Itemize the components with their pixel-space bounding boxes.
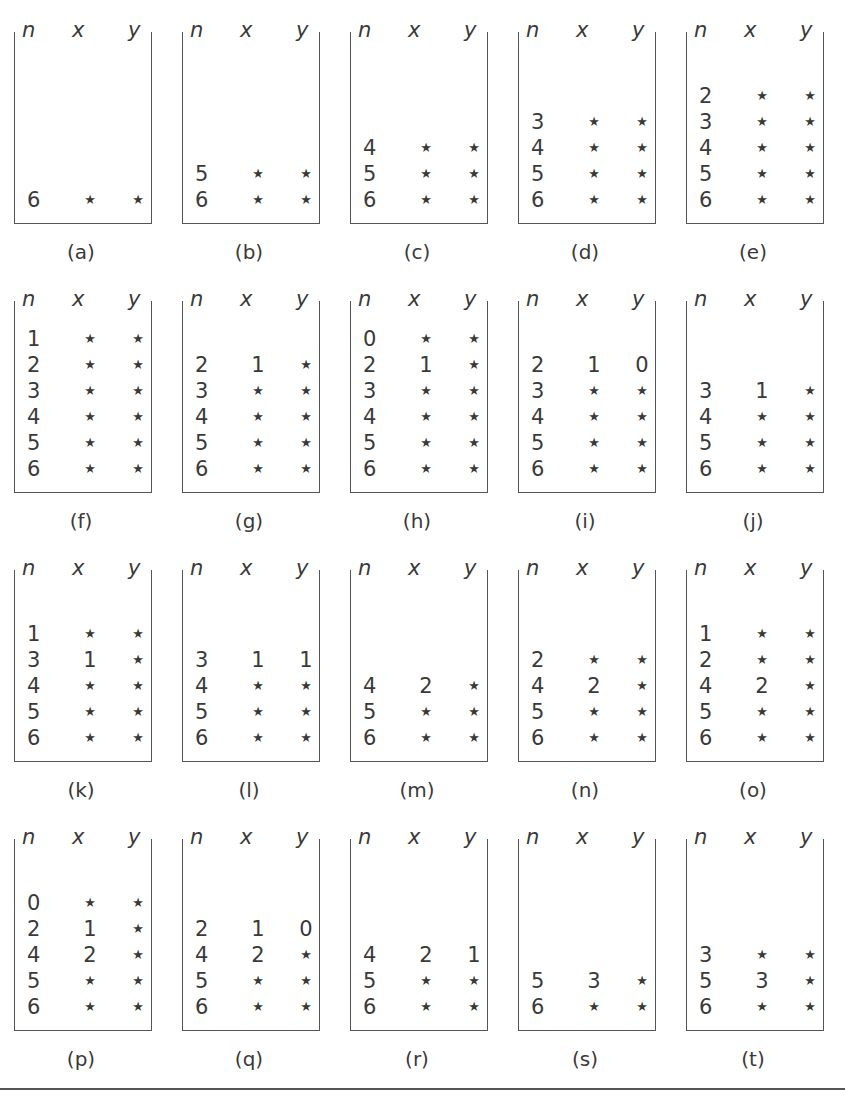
stack-row: 6 ★ ★ bbox=[351, 187, 487, 213]
cell-n: 6 bbox=[363, 187, 376, 213]
stack-panel-o: 1 ★ ★ 2 ★ ★ 4 2 ★ 5 ★ ★ 6 ★ ★ n x y (o) bbox=[682, 556, 824, 804]
cell-x-unset: ★ bbox=[411, 378, 441, 404]
column-headers: n x y bbox=[346, 556, 488, 584]
stack-row: 5 ★ ★ bbox=[183, 968, 319, 994]
stack-frame: 3 ★ ★ 4 ★ ★ 5 ★ ★ 6 ★ ★ bbox=[518, 32, 656, 224]
stack-panel-n: 2 ★ ★ 4 2 ★ 5 ★ ★ 6 ★ ★ n x y (n) bbox=[514, 556, 656, 804]
cell-y-unset: ★ bbox=[125, 968, 151, 994]
header-n: n bbox=[22, 18, 35, 42]
cell-y-unset: ★ bbox=[125, 673, 151, 699]
stack-frame: 1 ★ ★ 3 1 ★ 4 ★ ★ 5 ★ ★ 6 ★ ★ bbox=[14, 570, 152, 762]
cell-y-unset: ★ bbox=[125, 430, 151, 456]
cell-n: 6 bbox=[195, 994, 208, 1020]
cell-x: 2 bbox=[243, 942, 273, 968]
cell-y-unset: ★ bbox=[125, 326, 151, 352]
panel-caption: (o) bbox=[682, 778, 824, 802]
cell-y-unset: ★ bbox=[797, 83, 823, 109]
cell-x: 1 bbox=[243, 352, 273, 378]
stack-row: 6 ★ ★ bbox=[183, 725, 319, 751]
cell-x-unset: ★ bbox=[75, 378, 105, 404]
cell-x-unset: ★ bbox=[75, 994, 105, 1020]
stack-row: 3 1 ★ bbox=[15, 647, 151, 673]
stack-row: 3 ★ ★ bbox=[519, 378, 655, 404]
cell-y-unset: ★ bbox=[461, 404, 487, 430]
stack-frame: 1 ★ ★ 2 ★ ★ 4 2 ★ 5 ★ ★ 6 ★ ★ bbox=[686, 570, 824, 762]
stack-rows: 2 1 0 3 ★ ★ 4 ★ ★ 5 ★ ★ 6 ★ ★ bbox=[519, 352, 655, 482]
stack-row: 4 2 ★ bbox=[15, 942, 151, 968]
cell-y-unset: ★ bbox=[629, 968, 655, 994]
stack-rows: 1 ★ ★ 2 ★ ★ 4 2 ★ 5 ★ ★ 6 ★ ★ bbox=[687, 621, 823, 751]
cell-n: 5 bbox=[699, 161, 712, 187]
stack-row: 4 ★ ★ bbox=[351, 404, 487, 430]
cell-x: 1 bbox=[75, 916, 105, 942]
stack-panel-e: 2 ★ ★ 3 ★ ★ 4 ★ ★ 5 ★ ★ 6 ★ ★ n x y (e) bbox=[682, 18, 824, 266]
stack-row: 2 ★ ★ bbox=[687, 83, 823, 109]
stack-row: 5 ★ ★ bbox=[15, 968, 151, 994]
cell-x-unset: ★ bbox=[75, 326, 105, 352]
cell-n: 3 bbox=[699, 378, 712, 404]
cell-n: 4 bbox=[699, 404, 712, 430]
stack-row: 6 ★ ★ bbox=[183, 187, 319, 213]
cell-y-unset: ★ bbox=[125, 994, 151, 1020]
stack-row: 5 ★ ★ bbox=[183, 430, 319, 456]
cell-y-unset: ★ bbox=[125, 916, 151, 942]
column-headers: n x y bbox=[178, 825, 320, 853]
stack-frame: 0 ★ ★ 2 1 ★ 3 ★ ★ 4 ★ ★ 5 ★ ★ 6 ★ ★ bbox=[350, 301, 488, 493]
cell-y-unset: ★ bbox=[461, 352, 487, 378]
cell-n: 5 bbox=[363, 161, 376, 187]
cell-y-unset: ★ bbox=[629, 161, 655, 187]
header-x: x bbox=[576, 825, 588, 849]
cell-y-unset: ★ bbox=[629, 378, 655, 404]
cell-n: 3 bbox=[699, 109, 712, 135]
stack-row: 4 ★ ★ bbox=[15, 673, 151, 699]
stack-row: 4 ★ ★ bbox=[351, 135, 487, 161]
stack-row: 6 ★ ★ bbox=[15, 187, 151, 213]
header-n: n bbox=[526, 287, 539, 311]
cell-n: 5 bbox=[531, 968, 544, 994]
cell-x-unset: ★ bbox=[579, 187, 609, 213]
stack-row: 2 ★ ★ bbox=[519, 647, 655, 673]
stack-panel-d: 3 ★ ★ 4 ★ ★ 5 ★ ★ 6 ★ ★ n x y (d) bbox=[514, 18, 656, 266]
panel-caption: (l) bbox=[178, 778, 320, 802]
stack-row: 4 ★ ★ bbox=[183, 404, 319, 430]
column-headers: n x y bbox=[10, 825, 152, 853]
stack-panel-i: 2 1 0 3 ★ ★ 4 ★ ★ 5 ★ ★ 6 ★ ★ n x y (i) bbox=[514, 287, 656, 535]
header-n: n bbox=[22, 556, 35, 580]
cell-n: 6 bbox=[699, 187, 712, 213]
cell-n: 4 bbox=[699, 135, 712, 161]
stack-frame: 4 2 1 5 ★ ★ 6 ★ ★ bbox=[350, 839, 488, 1031]
cell-x-unset: ★ bbox=[579, 647, 609, 673]
cell-y-unset: ★ bbox=[629, 456, 655, 482]
cell-x: 1 bbox=[243, 647, 273, 673]
panel-caption: (n) bbox=[514, 778, 656, 802]
cell-y-unset: ★ bbox=[797, 161, 823, 187]
cell-n: 4 bbox=[363, 673, 376, 699]
cell-n: 5 bbox=[531, 430, 544, 456]
stack-panel-c: 4 ★ ★ 5 ★ ★ 6 ★ ★ n x y (c) bbox=[346, 18, 488, 266]
panel-caption: (h) bbox=[346, 509, 488, 533]
stack-row: 0 ★ ★ bbox=[351, 326, 487, 352]
header-n: n bbox=[358, 287, 371, 311]
stack-row: 2 ★ ★ bbox=[15, 352, 151, 378]
header-n: n bbox=[526, 825, 539, 849]
cell-y: 1 bbox=[461, 942, 487, 968]
header-x: x bbox=[408, 825, 420, 849]
panel-caption: (a) bbox=[10, 240, 152, 264]
cell-n: 5 bbox=[699, 699, 712, 725]
cell-n: 5 bbox=[363, 699, 376, 725]
cell-n: 5 bbox=[27, 430, 40, 456]
cell-x-unset: ★ bbox=[243, 968, 273, 994]
cell-x-unset: ★ bbox=[75, 352, 105, 378]
stack-row: 4 2 ★ bbox=[687, 673, 823, 699]
cell-x-unset: ★ bbox=[747, 647, 777, 673]
stack-rows: 2 ★ ★ 4 2 ★ 5 ★ ★ 6 ★ ★ bbox=[519, 647, 655, 751]
cell-y-unset: ★ bbox=[629, 725, 655, 751]
stack-frame: 3 ★ ★ 5 3 ★ 6 ★ ★ bbox=[686, 839, 824, 1031]
column-headers: n x y bbox=[178, 18, 320, 46]
stack-row: 5 ★ ★ bbox=[15, 430, 151, 456]
cell-y-unset: ★ bbox=[293, 456, 319, 482]
bottom-rule bbox=[0, 1088, 845, 1090]
cell-y-unset: ★ bbox=[797, 942, 823, 968]
stack-row: 5 3 ★ bbox=[519, 968, 655, 994]
stack-row: 6 ★ ★ bbox=[519, 725, 655, 751]
